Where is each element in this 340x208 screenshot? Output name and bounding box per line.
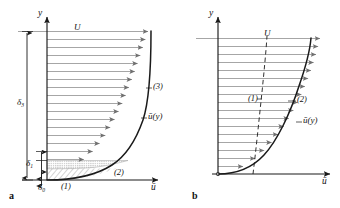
delta3-subscript: 3 [21,102,24,108]
delta3-label: δ3 [17,98,24,107]
panel-a-region2-label: (2) [114,168,124,177]
panel-a-freestream-label: U [74,23,81,32]
panel-a-velocity-vectors [47,32,148,160]
panel-a-profile-curve [47,31,151,180]
panel-b-profile-label: ū(y) [303,116,318,125]
delta1-subscript: 1 [30,163,33,169]
panel-b-profile-curve [218,38,311,174]
delta0-label: δ0 [38,183,45,192]
panel-b-y-axis-label: y [209,9,213,19]
panel-b-region1-label: (1) [248,94,258,103]
delta1-label: δ1 [26,159,33,168]
boundary-layer-figure: y ū U (3) ū(y) (2) (1) δ3 δ1 δ0 a y ū… [0,0,340,208]
delta0-subscript: 0 [42,187,45,193]
panel-a-group [18,17,158,186]
panel-a-region1-label: (1) [61,182,71,191]
panel-b-x-axis-label: ū [322,177,327,187]
panel-a-x-axis-label: ū [151,183,156,193]
panel-b-group [196,17,330,176]
panel-b-freestream-label: U [264,29,271,38]
figure-canvas [0,0,340,208]
panel-a-letter: a [9,190,14,201]
panel-b-region2-label: (2) [297,95,307,104]
panel-a-profile-label: ū(y) [148,112,163,121]
panel-a-region3-label: (3) [153,82,163,91]
panel-a-y-axis-label: y [38,9,42,19]
delta1-hatched-band [47,169,117,180]
panel-b-letter: b [192,190,198,201]
